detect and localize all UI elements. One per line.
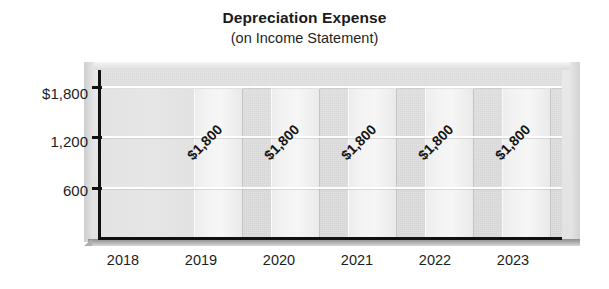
x-axis-tick-label: 2020 xyxy=(257,252,301,268)
bar xyxy=(348,87,397,238)
y-axis-tick-label: 1,200 xyxy=(16,133,88,150)
plot-area xyxy=(100,70,562,238)
y-axis-tick xyxy=(92,86,102,89)
y-axis-tick-label: 600 xyxy=(16,182,88,199)
y-axis-labels: $1,8001,200600 xyxy=(10,0,88,289)
plot-frame-top-bevel xyxy=(84,62,580,70)
x-axis-tick-label: 2023 xyxy=(491,252,535,268)
x-axis-line xyxy=(98,237,562,240)
gridline xyxy=(100,86,562,88)
chart-subtitle: (on Income Statement) xyxy=(0,28,609,48)
bar xyxy=(194,87,243,238)
x-axis-tick-label: 2022 xyxy=(413,252,457,268)
plot-frame-right-bevel xyxy=(570,62,580,242)
plot-frame-floor xyxy=(88,239,580,246)
x-axis-tick-label: 2019 xyxy=(179,252,223,268)
bar xyxy=(425,87,474,238)
bar xyxy=(271,87,320,238)
y-axis-tick xyxy=(92,187,102,190)
y-axis-line xyxy=(98,70,101,240)
page-title: Depreciation Expense xyxy=(0,8,609,27)
x-axis-labels: 201820192020202120222023 xyxy=(0,252,609,276)
chart-title-block: Depreciation Expense (on Income Statemen… xyxy=(0,8,609,48)
y-axis-tick-label: $1,800 xyxy=(16,85,88,102)
y-axis-tick xyxy=(92,136,102,139)
x-axis-tick-label: 2018 xyxy=(101,252,145,268)
gridline xyxy=(100,136,562,138)
x-axis-tick-label: 2021 xyxy=(335,252,379,268)
bar xyxy=(502,87,551,238)
gridline xyxy=(100,187,562,189)
bar xyxy=(100,87,202,238)
